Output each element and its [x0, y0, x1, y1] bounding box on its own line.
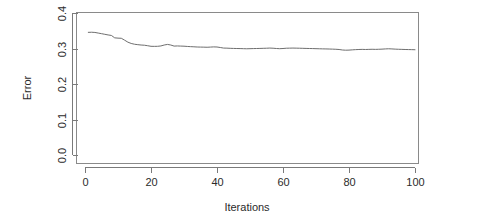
- x-tick-label: 20: [145, 176, 157, 188]
- y-tick-label: 0.0: [56, 148, 68, 163]
- y-tick-label: 0.1: [56, 113, 68, 128]
- y-tick-label: 0.2: [56, 77, 68, 92]
- x-tick-label: 40: [211, 176, 223, 188]
- x-tick-label: 80: [343, 176, 355, 188]
- y-tick-label: 0.3: [56, 42, 68, 57]
- x-tick-label: 100: [406, 176, 424, 188]
- chart-figure: 0.00.10.20.30.4 020406080100 Iterations …: [0, 0, 485, 223]
- x-tick-label: 60: [277, 176, 289, 188]
- y-tick-label: 0.4: [56, 6, 68, 21]
- y-axis-title: Error: [21, 75, 33, 100]
- x-tick-label: 0: [82, 176, 88, 188]
- x-axis-title: Iterations: [224, 201, 270, 213]
- error-vs-iterations-line-chart: 0.00.10.20.30.4 020406080100 Iterations …: [0, 0, 485, 223]
